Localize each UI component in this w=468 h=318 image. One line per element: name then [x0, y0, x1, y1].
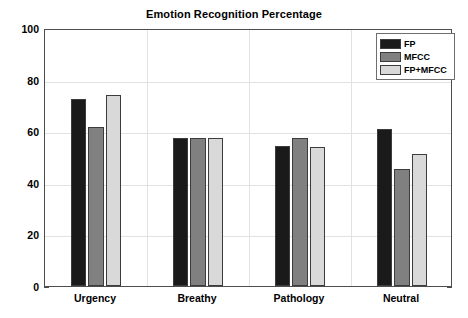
bar-fp-mfcc-breathy — [208, 138, 223, 286]
gridline-vertical — [249, 30, 250, 286]
y-axis-tick-label: 20 — [0, 229, 39, 241]
bar-fp-mfcc-urgency — [106, 95, 121, 286]
x-axis-category-label: Neutral — [383, 292, 419, 304]
bar-mfcc-urgency — [88, 127, 103, 286]
x-axis-category-label: Pathology — [274, 292, 325, 304]
y-axis-tick-label: 40 — [0, 178, 39, 190]
chart-figure: Emotion Recognition Percentage 020406080… — [0, 0, 468, 318]
legend-item-fp-mfcc[interactable]: FP+MFCC — [380, 63, 451, 76]
gridline-vertical — [351, 30, 352, 286]
y-axis-tick-label: 0 — [0, 281, 39, 293]
gridline-vertical — [147, 30, 148, 286]
bar-fp-mfcc-neutral — [412, 154, 427, 286]
bar-mfcc-breathy — [190, 138, 205, 286]
chart-title: Emotion Recognition Percentage — [0, 8, 468, 20]
legend-item-fp[interactable]: FP — [380, 37, 451, 50]
legend-item-mfcc[interactable]: MFCC — [380, 50, 451, 63]
bar-fp-breathy — [173, 138, 188, 286]
bar-fp-neutral — [377, 129, 392, 286]
gridline-horizontal — [45, 82, 451, 83]
legend-swatch-icon — [380, 52, 401, 62]
y-axis-tick-label: 80 — [0, 75, 39, 87]
chart-legend: FPMFCCFP+MFCC — [376, 33, 455, 80]
legend-item-label: FP — [404, 39, 416, 49]
y-axis-tick-mark-right — [447, 287, 452, 288]
bar-mfcc-neutral — [394, 169, 409, 286]
bar-fp-pathology — [275, 146, 290, 286]
y-axis-tick-label: 100 — [0, 23, 39, 35]
x-axis-category-label: Breathy — [177, 292, 216, 304]
x-axis-category-label: Urgency — [74, 292, 116, 304]
y-axis-tick-label: 60 — [0, 126, 39, 138]
bar-fp-urgency — [71, 99, 86, 286]
y-axis-tick-mark — [44, 287, 49, 288]
legend-item-label: MFCC — [404, 52, 430, 62]
legend-swatch-icon — [380, 39, 401, 49]
legend-swatch-icon — [380, 65, 401, 75]
bar-mfcc-pathology — [292, 138, 307, 286]
legend-item-label: FP+MFCC — [404, 65, 447, 75]
bar-fp-mfcc-pathology — [310, 147, 325, 286]
